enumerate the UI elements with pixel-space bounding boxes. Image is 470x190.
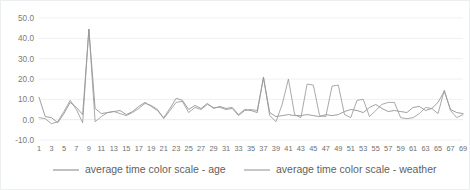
x-tick-label: 9	[87, 144, 91, 153]
x-tick-label: 67	[446, 144, 454, 153]
x-tick-label: 15	[122, 144, 130, 153]
gridlines	[39, 18, 463, 140]
legend-label-0: average time color scale - age	[85, 163, 226, 175]
y-axis-tick-labels: -10.00.010.020.030.040.050.0	[15, 14, 34, 145]
x-tick-label: 69	[459, 144, 467, 153]
series-line-0	[39, 29, 463, 123]
chart-svg: -10.00.010.020.030.040.050.0 13579111315…	[1, 1, 470, 190]
chart-legend: average time color scale - ageaverage ti…	[53, 163, 437, 175]
x-tick-label: 49	[334, 144, 342, 153]
x-tick-label: 31	[222, 144, 230, 153]
line-chart: -10.00.010.020.030.040.050.0 13579111315…	[1, 1, 470, 190]
x-tick-label: 25	[185, 144, 193, 153]
x-tick-label: 61	[409, 144, 417, 153]
y-tick-label: 50.0	[18, 14, 34, 23]
x-tick-label: 37	[259, 144, 267, 153]
y-tick-label: 40.0	[18, 34, 34, 43]
x-tick-label: 39	[272, 144, 280, 153]
y-tick-label: 10.0	[18, 95, 34, 104]
chart-container: -10.00.010.020.030.040.050.0 13579111315…	[0, 0, 470, 190]
legend-label-1: average time color scale - weather	[276, 163, 437, 175]
series-lines	[39, 29, 463, 124]
series-line-1	[39, 29, 463, 124]
x-tick-label: 23	[172, 144, 180, 153]
x-tick-label: 17	[135, 144, 143, 153]
x-tick-label: 27	[197, 144, 205, 153]
x-tick-label: 35	[247, 144, 255, 153]
x-tick-label: 29	[209, 144, 217, 153]
x-tick-label: 11	[98, 144, 106, 153]
x-tick-label: 53	[359, 144, 367, 153]
x-tick-label: 43	[297, 144, 305, 153]
x-tick-label: 45	[309, 144, 317, 153]
y-tick-label: 20.0	[18, 75, 34, 84]
x-tick-label: 51	[347, 144, 355, 153]
x-tick-label: 41	[284, 144, 292, 153]
x-tick-label: 55	[372, 144, 380, 153]
x-tick-label: 57	[384, 144, 392, 153]
y-tick-label: 0.0	[23, 116, 35, 125]
x-tick-label: 19	[147, 144, 155, 153]
x-axis-tick-labels: 1357911131517192123252729313335373941434…	[37, 144, 467, 153]
x-tick-label: 65	[434, 144, 442, 153]
x-tick-label: 47	[322, 144, 330, 153]
x-tick-label: 3	[49, 144, 53, 153]
x-tick-label: 63	[421, 144, 429, 153]
x-tick-label: 21	[160, 144, 168, 153]
x-tick-label: 5	[62, 144, 66, 153]
x-tick-label: 1	[37, 144, 41, 153]
x-tick-label: 7	[74, 144, 78, 153]
x-tick-label: 33	[234, 144, 242, 153]
y-tick-label: -10.0	[15, 136, 34, 145]
y-tick-label: 30.0	[18, 55, 34, 64]
x-tick-label: 59	[397, 144, 405, 153]
x-tick-label: 13	[110, 144, 118, 153]
